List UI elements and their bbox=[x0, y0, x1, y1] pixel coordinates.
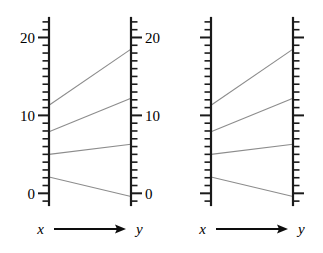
connector-line bbox=[211, 177, 293, 196]
nomogram-svg: xy bbox=[162, 0, 323, 253]
connector-line bbox=[49, 144, 131, 154]
connector-lines bbox=[211, 49, 293, 196]
axis-tick-label: 10 bbox=[145, 108, 160, 124]
x-axis-letter-label: x bbox=[198, 221, 206, 237]
right-panel: xy bbox=[162, 0, 323, 253]
left-panel: 0102001020xy bbox=[0, 0, 161, 253]
y-axis: 01020 bbox=[131, 18, 160, 205]
y-axis-letter-label: y bbox=[134, 221, 143, 237]
axis-tick-label: 0 bbox=[28, 186, 36, 202]
nomogram-svg: 0102001020xy bbox=[0, 0, 161, 253]
x-axis-letter-label: x bbox=[36, 221, 44, 237]
connector-line bbox=[211, 98, 293, 132]
connector-line bbox=[49, 177, 131, 196]
y-axis bbox=[293, 18, 304, 205]
axis-tick-label: 0 bbox=[145, 186, 153, 202]
x-axis bbox=[200, 18, 211, 205]
y-axis-letter-label: y bbox=[296, 221, 305, 237]
connector-line bbox=[49, 49, 131, 105]
connector-line bbox=[211, 144, 293, 154]
axis-tick-label: 20 bbox=[20, 30, 35, 46]
connector-line bbox=[49, 98, 131, 132]
connector-line bbox=[211, 49, 293, 105]
x-axis: 01020 bbox=[20, 18, 49, 205]
axis-tick-label: 10 bbox=[20, 108, 35, 124]
axis-tick-label: 20 bbox=[145, 30, 160, 46]
figure-root: 0102001020xy xy bbox=[0, 0, 323, 253]
connector-lines bbox=[49, 49, 131, 196]
